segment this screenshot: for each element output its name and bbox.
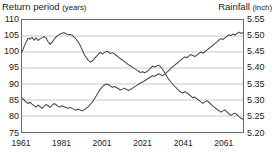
left-axis-tick: 100 <box>0 47 19 56</box>
right-axis-title-unit: (inch) <box>253 3 273 12</box>
right-axis-tick: 5.50 <box>247 31 273 40</box>
right-axis-tick: 5.20 <box>247 129 273 138</box>
right-axis-tick: 5.40 <box>247 63 273 72</box>
left-axis-tick: 95 <box>0 63 19 72</box>
right-axis-tick: 5.25 <box>247 112 273 121</box>
x-axis-tick: 2041 <box>174 139 193 148</box>
right-axis-tick: 5.45 <box>247 47 273 56</box>
left-axis-tick: 80 <box>0 112 19 121</box>
x-axis-tick: 2001 <box>93 139 112 148</box>
right-axis-title-main: Rainfall <box>218 1 250 12</box>
plot-area <box>21 19 244 133</box>
left-axis-tick: 110 <box>0 15 19 24</box>
x-axis-tick: 2061 <box>214 139 233 148</box>
left-axis-title-unit: (years) <box>62 3 86 12</box>
right-axis-tick: 5.35 <box>247 80 273 89</box>
x-axis-tick: 2021 <box>133 139 152 148</box>
right-axis-tick: 5.30 <box>247 96 273 105</box>
series-line-2 <box>22 32 243 111</box>
left-axis-tick: 75 <box>0 129 19 138</box>
left-axis-tick: 85 <box>0 96 19 105</box>
left-axis-tick: 105 <box>0 31 19 40</box>
x-axis-tick: 1981 <box>52 139 71 148</box>
series-lines <box>22 20 243 132</box>
left-axis-title-main: Return period <box>2 1 60 12</box>
left-axis-title: Return period (years) <box>2 1 86 13</box>
right-axis-tick: 5.55 <box>247 15 273 24</box>
chart-container: Return period (years) Rainfall (inch) 11… <box>0 0 274 155</box>
right-axis-title: Rainfall (inch) <box>218 1 272 13</box>
x-axis-tick: 1961 <box>12 139 31 148</box>
series-line-1 <box>22 33 243 119</box>
left-axis-tick: 90 <box>0 80 19 89</box>
